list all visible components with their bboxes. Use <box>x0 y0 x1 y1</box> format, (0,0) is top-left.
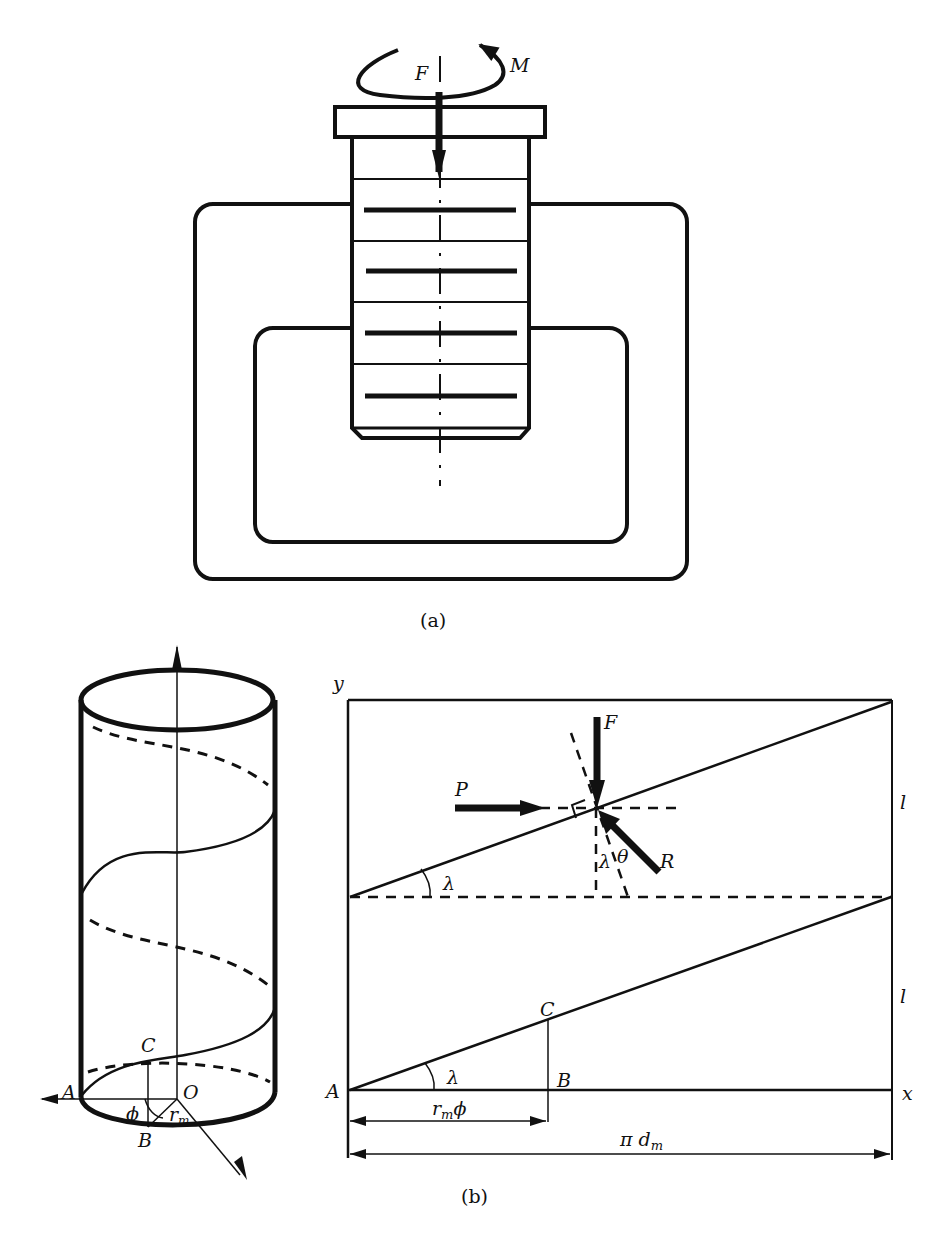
helix-line-upper <box>350 702 891 897</box>
helix-front <box>82 1008 275 1095</box>
helix-back <box>93 727 268 785</box>
label-theta: θ <box>617 845 629 867</box>
cyl-label-rm: rm <box>169 1103 189 1128</box>
label-lambda-upper: λ <box>442 872 455 894</box>
cyl-label-o: O <box>183 1081 199 1103</box>
label-moment-m: M <box>509 54 530 76</box>
label-lambda-contact: λ <box>598 850 611 872</box>
caption-b: (b) <box>461 1185 488 1207</box>
label-f: F <box>603 711 618 733</box>
figure-canvas: F M (a) C A O ϕ B rm <box>0 0 941 1243</box>
cyl-label-b: B <box>137 1129 152 1151</box>
label-x: x <box>902 1082 913 1104</box>
label-arc-length: rmϕ <box>432 1097 466 1122</box>
label-r: R <box>659 850 674 872</box>
label-y: y <box>332 672 344 694</box>
panel-a-screw-jack <box>195 45 687 579</box>
label-point-b: B <box>556 1069 571 1091</box>
cyl-label-c: C <box>141 1034 156 1056</box>
label-force-f: F <box>414 62 429 84</box>
label-point-a: A <box>324 1080 340 1102</box>
cyl-label-a: A <box>60 1081 76 1103</box>
caption-a: (a) <box>420 609 446 631</box>
moment-arrow <box>358 45 503 98</box>
panel-b-unrolled-thread <box>348 700 892 1160</box>
label-lambda-lower: λ <box>446 1066 459 1088</box>
label-pitch-lower: l <box>900 985 906 1007</box>
label-point-c: C <box>540 998 555 1020</box>
label-pitch-upper: l <box>900 791 906 813</box>
cyl-label-phi: ϕ <box>126 1102 139 1124</box>
label-p: P <box>454 778 469 800</box>
helix-line-lower <box>350 897 891 1090</box>
label-circumference: π dm <box>619 1128 663 1153</box>
